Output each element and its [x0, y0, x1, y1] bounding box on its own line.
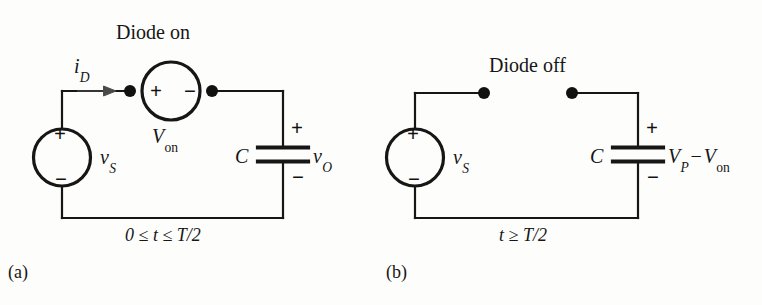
source-a-minus-sign: −: [55, 169, 67, 190]
source-a-label: vS: [100, 147, 116, 172]
panel-a-tag: (a): [8, 263, 28, 281]
von-subscript: on: [164, 140, 178, 155]
node-dot-b-right: [566, 87, 578, 99]
panel-a-condition: 0 ≤ t ≤ T/2: [125, 226, 201, 244]
capacitor-a-label: C: [235, 146, 248, 166]
output-b-label: VP−Von: [668, 146, 730, 171]
node-dot-b-left: [478, 87, 490, 99]
source-a-plus-sign: +: [54, 124, 66, 145]
capacitor-a-minus-sign: −: [292, 167, 304, 188]
source-b-plus-sign: +: [407, 124, 419, 145]
von-symbol: V: [152, 125, 164, 147]
panel-b-title: Diode off: [489, 55, 566, 75]
capacitor-b-minus-sign: −: [647, 167, 659, 188]
output-b-vp-subscript: P: [680, 160, 688, 175]
output-a-symbol: v: [313, 145, 322, 167]
von-label: Von: [152, 126, 178, 151]
von-plus-sign: +: [150, 81, 162, 102]
current-arrow-a: [78, 86, 116, 96]
node-dot-a-left: [124, 85, 136, 97]
source-b-symbol: v: [453, 146, 462, 168]
source-b-label: vS: [453, 147, 469, 172]
current-subscript: D: [80, 70, 90, 85]
node-dot-a-right: [206, 85, 218, 97]
figure-canvas: Diode on iD + − vS + − Von C + − vO 0 ≤ …: [0, 0, 762, 305]
capacitor-b-plus-sign: +: [646, 118, 658, 139]
output-b-operator: −: [691, 145, 702, 167]
output-b-vp-symbol: V: [668, 145, 680, 167]
von-minus-sign: −: [184, 81, 196, 102]
capacitor-b-label: C: [590, 146, 603, 166]
output-b-von-subscript: on: [716, 160, 730, 175]
panel-b-wires: [415, 93, 638, 218]
capacitor-a-plus-sign: +: [291, 118, 303, 139]
current-symbol: i: [74, 55, 80, 77]
panel-a-title: Diode on: [116, 22, 190, 42]
output-b-von-symbol: V: [704, 145, 716, 167]
output-a-subscript: O: [322, 160, 332, 175]
panel-b-tag: (b): [386, 263, 407, 281]
source-a-symbol: v: [100, 146, 109, 168]
output-a-label: vO: [313, 146, 332, 171]
source-b-subscript: S: [462, 161, 469, 176]
current-label-a: iD: [74, 56, 89, 81]
source-a-subscript: S: [109, 161, 116, 176]
source-b-minus-sign: −: [408, 169, 420, 190]
panel-b-condition: t ≥ T/2: [499, 226, 547, 244]
